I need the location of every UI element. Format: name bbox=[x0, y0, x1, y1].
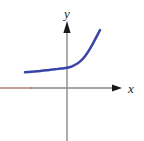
x-axis-group bbox=[0, 84, 122, 91]
exponential-curve bbox=[25, 30, 100, 72]
y-axis-label: y bbox=[64, 7, 70, 20]
plot-canvas bbox=[0, 0, 144, 141]
arrow-up-icon bbox=[63, 21, 70, 33]
exponential-graph-figure: y x bbox=[0, 0, 144, 141]
y-axis-group bbox=[63, 21, 70, 141]
arrow-right-icon bbox=[112, 84, 122, 91]
x-axis-label: x bbox=[128, 82, 134, 95]
